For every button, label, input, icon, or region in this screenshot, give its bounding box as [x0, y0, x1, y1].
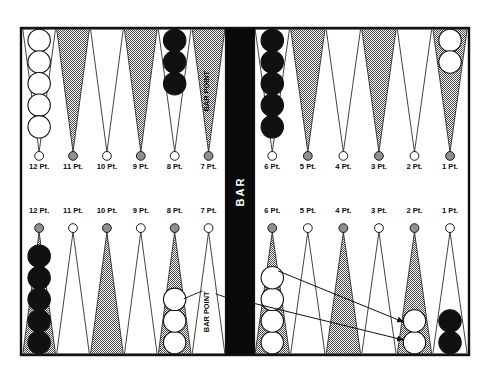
point-tip-marker: [35, 224, 44, 233]
point-tip-marker: [69, 224, 78, 233]
checker-white[interactable]: [28, 94, 50, 116]
checker-black[interactable]: [261, 72, 283, 94]
point-label: 12 Pt.: [29, 206, 49, 215]
checker-black[interactable]: [28, 267, 50, 289]
point-tip-marker: [136, 224, 145, 233]
point-tip-marker: [268, 224, 277, 233]
checker-black[interactable]: [163, 72, 185, 94]
bar-layer: BAR: [226, 28, 255, 355]
point-label: 11 Pt.: [63, 206, 83, 215]
point-label: 7 Pt.: [201, 162, 217, 171]
point-tip-marker: [446, 152, 455, 161]
point-tip-marker: [339, 224, 348, 233]
point-label: 10 Pt.: [97, 162, 117, 171]
point-label: 2 Pt.: [406, 206, 422, 215]
checker-black[interactable]: [28, 310, 50, 332]
point-tip-marker: [375, 152, 384, 161]
point-tip-marker: [136, 152, 145, 161]
checker-white[interactable]: [28, 72, 50, 94]
point-tip-marker: [170, 152, 179, 161]
point-tip-marker: [204, 224, 213, 233]
point-label: 8 Pt.: [167, 162, 183, 171]
point-label: 9 Pt.: [133, 162, 149, 171]
checker-white[interactable]: [261, 331, 283, 353]
point-label: 3 Pt.: [371, 162, 387, 171]
bar-point-annotation: BAR POINT: [202, 291, 211, 332]
checker-white[interactable]: [261, 288, 283, 310]
bar-point-annotation: BAR POINT: [202, 70, 211, 111]
point-label: 7 Pt.: [201, 206, 217, 215]
checker-black[interactable]: [261, 94, 283, 116]
point-label: 3 Pt.: [371, 206, 387, 215]
bar-label: BAR: [234, 177, 246, 207]
point-tip-marker: [303, 152, 312, 161]
checker-black[interactable]: [163, 29, 185, 51]
point-tip-marker: [103, 224, 112, 233]
point-tip-marker: [204, 152, 213, 161]
point-label: 9 Pt.: [133, 206, 149, 215]
checker-white[interactable]: [439, 29, 461, 51]
checker-white[interactable]: [261, 267, 283, 289]
checker-black[interactable]: [439, 331, 461, 353]
checker-white[interactable]: [439, 51, 461, 73]
point-tip-marker: [375, 224, 384, 233]
checker-white[interactable]: [163, 331, 185, 353]
checker-black[interactable]: [28, 331, 50, 353]
point-label: 8 Pt.: [167, 206, 183, 215]
point-label: 5 Pt.: [300, 206, 316, 215]
point-label: 4 Pt.: [335, 162, 351, 171]
point-tip-marker: [303, 224, 312, 233]
board-canvas: BAR 12 Pt.11 Pt.10 Pt.9 Pt.8 Pt.7 Pt.6 P…: [0, 0, 485, 384]
point-label: 2 Pt.: [406, 162, 422, 171]
point-label: 1 Pt.: [442, 206, 458, 215]
checker-white[interactable]: [261, 310, 283, 332]
checker-white[interactable]: [163, 288, 185, 310]
checker-white[interactable]: [403, 310, 425, 332]
point-tip-marker: [268, 152, 277, 161]
point-tip-marker: [410, 224, 419, 233]
point-tip-marker: [339, 152, 348, 161]
point-tip-marker: [410, 152, 419, 161]
checker-white[interactable]: [28, 116, 50, 138]
point-label: 12 Pt.: [29, 162, 49, 171]
checker-black[interactable]: [261, 116, 283, 138]
point-label: 5 Pt.: [300, 162, 316, 171]
point-tip-marker: [446, 224, 455, 233]
checker-white[interactable]: [403, 331, 425, 353]
point-label: 10 Pt.: [97, 206, 117, 215]
point-tip-marker: [35, 152, 44, 161]
point-tip-marker: [103, 152, 112, 161]
point-label: 6 Pt.: [264, 162, 280, 171]
checker-white[interactable]: [163, 310, 185, 332]
point-tip-marker: [69, 152, 78, 161]
point-label: 4 Pt.: [335, 206, 351, 215]
checker-black[interactable]: [28, 245, 50, 267]
checker-black[interactable]: [261, 51, 283, 73]
checker-white[interactable]: [28, 51, 50, 73]
checker-white[interactable]: [28, 29, 50, 51]
point-label: 6 Pt.: [264, 206, 280, 215]
checker-black[interactable]: [28, 288, 50, 310]
checker-black[interactable]: [163, 51, 185, 73]
point-tip-marker: [170, 224, 179, 233]
point-label: 1 Pt.: [442, 162, 458, 171]
backgammon-diagram: BLACK'S OUTER BOARD BLACK'S HOME BOARD W…: [0, 0, 485, 384]
checker-black[interactable]: [439, 310, 461, 332]
point-label: 11 Pt.: [63, 162, 83, 171]
checker-black[interactable]: [261, 29, 283, 51]
